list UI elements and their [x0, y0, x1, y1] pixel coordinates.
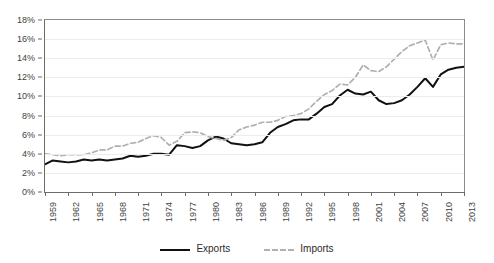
dashed-line-swatch-icon [264, 245, 294, 254]
x-tick-label: 2007 [421, 202, 430, 222]
gridline [45, 39, 464, 40]
x-tick-label: 1980 [212, 202, 221, 222]
y-tick-mark [38, 58, 42, 59]
y-tick-mark [38, 153, 42, 154]
x-tick-mark [68, 192, 69, 196]
gridline [45, 173, 464, 174]
y-tick-mark [38, 39, 42, 40]
legend-item-exports[interactable]: Exports [160, 244, 230, 254]
x-tick-mark [255, 192, 256, 196]
y-tick-mark [38, 20, 42, 21]
x-tick-label: 1959 [49, 202, 58, 222]
x-tick-label: 2001 [375, 202, 384, 222]
gridline [45, 77, 464, 78]
x-tick-mark [278, 192, 279, 196]
y-tick-mark [38, 192, 42, 193]
x-tick-label: 1965 [96, 202, 105, 222]
plot-area [44, 19, 465, 193]
y-tick-label: 4% [22, 149, 35, 158]
x-tick-mark [441, 192, 442, 196]
x-tick-mark [115, 192, 116, 196]
y-tick-label: 8% [22, 111, 35, 120]
x-tick-mark [208, 192, 209, 196]
gridline [45, 135, 464, 136]
x-tick-mark [464, 192, 465, 196]
x-tick-mark [324, 192, 325, 196]
x-tick-mark [394, 192, 395, 196]
chart-container: 0%2%4%6%8%10%12%14%16%18% 19591962196519… [0, 0, 494, 263]
x-tick-label: 2010 [445, 202, 454, 222]
y-axis: 0%2%4%6%8%10%12%14%16%18% [0, 19, 42, 193]
x-tick-label: 1968 [119, 202, 128, 222]
y-tick-mark [38, 96, 42, 97]
gridlines [45, 20, 464, 192]
solid-line-swatch-icon [160, 245, 190, 254]
x-tick-label: 1995 [328, 202, 337, 222]
x-tick-mark [161, 192, 162, 196]
y-tick-mark [38, 134, 42, 135]
y-tick-label: 18% [17, 16, 35, 25]
chart-legend: Exports Imports [0, 240, 494, 258]
y-tick-mark [38, 172, 42, 173]
y-tick-mark [38, 77, 42, 78]
y-tick-label: 2% [22, 168, 35, 177]
y-tick-label: 6% [22, 130, 35, 139]
gridline [45, 116, 464, 117]
x-tick-mark [138, 192, 139, 196]
x-tick-mark [371, 192, 372, 196]
gridline [45, 58, 464, 59]
legend-label-exports: Exports [196, 244, 230, 254]
x-tick-mark [301, 192, 302, 196]
x-tick-mark [92, 192, 93, 196]
x-tick-label: 1992 [305, 202, 314, 222]
y-tick-label: 14% [17, 54, 35, 63]
x-tick-label: 1986 [259, 202, 268, 222]
x-axis: 1959196219651968197119741977198019831986… [44, 196, 465, 236]
legend-item-imports[interactable]: Imports [264, 244, 333, 254]
x-tick-mark [185, 192, 186, 196]
x-tick-label: 2013 [468, 202, 477, 222]
y-tick-label: 0% [22, 188, 35, 197]
legend-label-imports: Imports [300, 244, 333, 254]
x-tick-label: 1971 [142, 202, 151, 222]
y-tick-mark [38, 115, 42, 116]
x-tick-label: 1962 [72, 202, 81, 222]
y-tick-label: 10% [17, 92, 35, 101]
x-tick-label: 2004 [398, 202, 407, 222]
x-tick-mark [45, 192, 46, 196]
x-tick-mark [348, 192, 349, 196]
x-tick-label: 1977 [189, 202, 198, 222]
x-tick-label: 1998 [352, 202, 361, 222]
x-tick-label: 1983 [235, 202, 244, 222]
y-tick-label: 16% [17, 35, 35, 44]
x-tick-label: 1974 [165, 202, 174, 222]
x-tick-mark [231, 192, 232, 196]
gridline [45, 154, 464, 155]
x-tick-label: 1989 [282, 202, 291, 222]
gridline [45, 96, 464, 97]
y-tick-label: 12% [17, 73, 35, 82]
x-tick-mark [417, 192, 418, 196]
